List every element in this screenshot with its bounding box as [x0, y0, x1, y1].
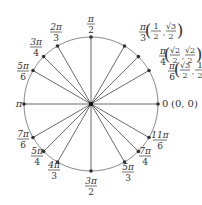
angle-label-3pi-4: 3π4: [30, 37, 43, 58]
angle-text: 0: [162, 98, 168, 109]
angle-label-pi: π: [15, 98, 23, 109]
numerator: 4π: [47, 160, 61, 170]
denominator: 3: [51, 171, 57, 181]
angle-point-pi: [22, 102, 26, 106]
angle-label-11pi-6: 11π6: [151, 130, 169, 151]
angle-label-7pi-4: 7π4: [139, 146, 152, 167]
numerator: 7π: [17, 129, 30, 139]
denominator: 3: [53, 33, 59, 43]
svg-text:,: ,: [192, 67, 195, 76]
svg-text:√3: √3: [166, 22, 176, 31]
angle-label-7pi-6: 7π6: [17, 129, 30, 150]
denominator: 6: [20, 72, 26, 82]
denominator: 2: [88, 25, 94, 35]
coordinate-label-pi-3: (12,√32): [145, 20, 184, 41]
coordinate-text: (0, 0): [171, 98, 198, 109]
angle-text: π: [15, 98, 23, 109]
angle-label-4pi-3: 4π3: [47, 160, 61, 181]
angle-point-3pi-2: [89, 169, 93, 173]
numerator: 5π: [122, 162, 135, 172]
numerator: 3π: [85, 176, 98, 186]
denominator: 6: [157, 141, 163, 151]
numerator: 7π: [139, 146, 152, 156]
angle-label-5pi-4: 5π4: [31, 146, 44, 167]
svg-text:): ): [196, 44, 202, 64]
numerator: 11π: [151, 130, 169, 140]
denominator: 4: [142, 157, 148, 167]
denominator: 2: [88, 187, 94, 197]
angle-point-pi-6: [147, 69, 151, 73]
unit-circle-diagram: 0(0, 0)π6(√32,12)π4(√22,√22)π3(12,√32)π2…: [0, 0, 202, 205]
svg-text:): ): [177, 20, 184, 40]
numerator: 2π: [49, 22, 63, 32]
angle-point-2pi-3: [56, 44, 60, 48]
angle-label-pi-2: π2: [87, 14, 95, 35]
angle-label-5pi-6: 5π6: [17, 61, 30, 82]
svg-text:1: 1: [153, 22, 158, 31]
denominator: 4: [33, 48, 39, 58]
angle-point-pi-4: [137, 55, 141, 59]
svg-text:(: (: [145, 20, 152, 40]
svg-text:2: 2: [187, 56, 192, 65]
svg-text:√2: √2: [170, 46, 180, 55]
angle-point-7pi-6: [31, 136, 35, 140]
svg-text:2: 2: [153, 32, 158, 41]
svg-text:2: 2: [172, 56, 177, 65]
numerator: 5π: [17, 61, 30, 71]
svg-text:2: 2: [197, 71, 202, 80]
angle-point-pi-2: [89, 35, 93, 39]
unit-circle-canvas: 0(0, 0)π6(√32,12)π4(√22,√22)π3(12,√32)π2…: [0, 0, 202, 205]
angle-labels: 0(0, 0)π6(√32,12)π4(√22,√22)π3(12,√32)π2…: [15, 14, 202, 197]
svg-text:,: ,: [163, 28, 166, 37]
angle-label-5pi-3: 5π3: [122, 162, 135, 183]
angle-point-pi-3: [123, 44, 127, 48]
svg-text:2: 2: [168, 32, 173, 41]
denominator: 6: [20, 140, 26, 150]
denominator: 4: [34, 157, 40, 167]
numerator: π: [87, 14, 95, 24]
numerator: 5π: [31, 146, 44, 156]
angle-label-0: 0(0, 0): [162, 98, 198, 109]
angle-point-11pi-6: [147, 136, 151, 140]
angle-label-2pi-3: 2π3: [49, 22, 63, 43]
angle-label-3pi-2: 3π2: [85, 176, 98, 197]
numerator: 3π: [30, 37, 43, 47]
angle-point-3pi-4: [42, 55, 46, 59]
svg-text:√2: √2: [185, 46, 195, 55]
origin-point: [89, 102, 93, 106]
svg-text:2: 2: [182, 71, 187, 80]
svg-text:,: ,: [182, 52, 185, 61]
angle-point-0: [156, 102, 160, 106]
denominator: 3: [125, 173, 131, 183]
angle-point-5pi-6: [31, 69, 35, 73]
